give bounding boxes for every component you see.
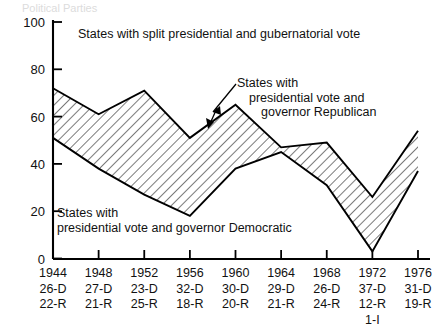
x-axis-year-label: 1948 — [75, 266, 123, 282]
y-axis-tick-label: 40 — [31, 157, 45, 172]
x-axis-democrat-count: 26-D — [29, 282, 77, 298]
x-axis-democrat-count: 26-D — [303, 282, 351, 298]
x-axis-democrat-count: 27-D — [75, 282, 123, 298]
x-axis-democrat-count: 23-D — [120, 282, 168, 298]
x-axis-column: 196030-D20-R — [212, 266, 260, 313]
x-axis-republican-count: 24-R — [303, 297, 351, 313]
x-axis-ticks — [99, 250, 418, 259]
x-axis-republican-count: 19-R — [394, 297, 435, 313]
x-axis-year-label: 1972 — [348, 266, 396, 282]
x-axis-republican-count: 22-R — [29, 297, 77, 313]
x-axis-column: 195632-D18-R — [166, 266, 214, 313]
top-cropped-text: Political Parties — [22, 0, 97, 16]
annotation-republican-line2: presidential vote and — [237, 91, 376, 106]
x-axis-republican-count: 12-R — [348, 297, 396, 313]
x-axis-column: 194426-D22-R — [29, 266, 77, 313]
x-axis-year-label: 1964 — [257, 266, 305, 282]
x-axis-column: 195223-D25-R — [120, 266, 168, 313]
annotation-democratic-line2: presidential vote and governor Democrati… — [57, 221, 292, 236]
annotation-democratic: States with presidential vote and govern… — [57, 206, 292, 236]
chart-figure: 020406080100 Political Parties States wi… — [0, 0, 435, 328]
x-axis-democrat-count: 29-D — [257, 282, 305, 298]
y-axis-tick-label: 60 — [31, 110, 45, 125]
x-axis-year-label: 1968 — [303, 266, 351, 282]
x-axis-column: 197631-D19-R — [394, 266, 435, 313]
x-axis-year-label: 1956 — [166, 266, 214, 282]
y-axis-tick-labels: 020406080100 — [23, 15, 45, 267]
x-axis-year-label: 1952 — [120, 266, 168, 282]
x-axis-republican-count: 20-R — [212, 297, 260, 313]
x-axis-year-label: 1976 — [394, 266, 435, 282]
annotation-democratic-line1: States with — [57, 206, 292, 221]
x-axis-democrat-count: 32-D — [166, 282, 214, 298]
x-axis-year-label: 1960 — [212, 266, 260, 282]
annotation-republican-line3: governor Republican — [237, 105, 376, 120]
x-axis-independent-count: 1-I — [348, 313, 396, 328]
y-axis-tick-label: 80 — [31, 62, 45, 77]
x-axis-column: 196429-D21-R — [257, 266, 305, 313]
y-axis-tick-label: 0 — [38, 252, 45, 267]
x-axis-column: 194827-D21-R — [75, 266, 123, 313]
x-axis-democrat-count: 31-D — [394, 282, 435, 298]
y-axis-tick-label: 100 — [23, 15, 45, 30]
x-axis-year-label: 1944 — [29, 266, 77, 282]
x-axis-republican-count: 25-R — [120, 297, 168, 313]
x-axis-republican-count: 18-R — [166, 297, 214, 313]
annotation-republican-line1: States with — [237, 76, 376, 91]
x-axis-column: 196826-D24-R — [303, 266, 351, 313]
x-axis-republican-count: 21-R — [75, 297, 123, 313]
x-axis-democrat-count: 30-D — [212, 282, 260, 298]
annotation-republican: States with presidential vote and govern… — [237, 76, 376, 120]
x-axis-democrat-count: 37-D — [348, 282, 396, 298]
y-axis-tick-label: 20 — [31, 204, 45, 219]
x-axis-republican-count: 21-R — [257, 297, 305, 313]
annotation-split-vote: States with split presidential and guber… — [78, 27, 360, 41]
x-axis-column: 197237-D12-R1-I — [348, 266, 396, 328]
